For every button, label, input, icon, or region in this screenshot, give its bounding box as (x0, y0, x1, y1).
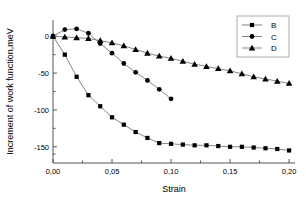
x-tick-label: 0,15 (223, 167, 238, 176)
legend-label-B: B (271, 21, 276, 30)
marker-circle (62, 27, 67, 32)
marker-circle (121, 61, 126, 66)
marker-circle (157, 87, 162, 92)
marker-square (110, 115, 114, 119)
marker-square (134, 130, 138, 134)
marker-square (157, 141, 161, 145)
x-axis-title: Strain (162, 184, 186, 194)
marker-circle (74, 26, 79, 31)
y-tick-label: -50 (38, 69, 49, 78)
plot-canvas: 0,000,050,100,150,200-50-100-150StrainIn… (0, 0, 306, 202)
marker-square (75, 75, 79, 79)
x-tick-label: 0,05 (105, 167, 120, 176)
marker-square (240, 145, 244, 149)
marker-circle (145, 78, 150, 83)
marker-square (252, 145, 256, 149)
marker-square (98, 104, 102, 108)
legend-label-D: D (271, 44, 277, 53)
marker-square (122, 123, 126, 127)
marker-square (181, 142, 185, 146)
y-tick-label: 0 (45, 32, 49, 41)
marker-square (275, 147, 279, 151)
series-C (51, 26, 174, 101)
marker-square (169, 142, 173, 146)
legend-label-C: C (271, 33, 277, 42)
marker-square (287, 148, 291, 152)
y-tick-label: -100 (34, 106, 49, 115)
marker-square (250, 23, 254, 27)
marker-circle (133, 70, 138, 75)
marker-circle (250, 34, 255, 39)
y-tick-label: -150 (34, 143, 49, 152)
marker-square (228, 145, 232, 149)
chart-figure: 0,000,050,100,150,200-50-100-150StrainIn… (0, 0, 306, 202)
marker-square (193, 143, 197, 147)
series-line-C (53, 29, 171, 99)
marker-square (263, 146, 267, 150)
marker-square (204, 143, 208, 147)
x-tick-label: 0,20 (282, 167, 297, 176)
x-tick-label: 0,10 (164, 167, 179, 176)
marker-circle (86, 31, 91, 36)
y-axis-title: Increment of work function,meV (5, 28, 15, 155)
legend: BCD (237, 16, 289, 57)
marker-circle (110, 51, 115, 56)
marker-square (63, 53, 67, 57)
x-tick-label: 0,00 (46, 167, 61, 176)
marker-circle (169, 96, 174, 101)
marker-square (145, 136, 149, 140)
marker-square (86, 93, 90, 97)
marker-square (216, 144, 220, 148)
